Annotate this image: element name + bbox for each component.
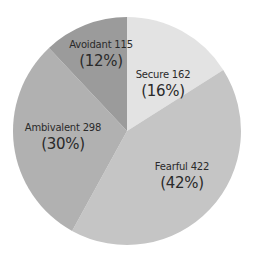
slice-label-secure-name: Secure 162 [136,70,191,80]
slice-label-ambivalent: Ambivalent 298 (30%) [25,123,101,152]
slice-label-fearful-name: Fearful 422 [155,162,209,172]
slice-label-secure: Secure 162 (16%) [136,70,191,99]
slice-label-ambivalent-percent: (30%) [25,137,101,152]
slice-label-secure-percent: (16%) [136,84,191,99]
slice-label-avoidant: Avoidant 115 (12%) [69,40,133,69]
slice-label-ambivalent-name: Ambivalent 298 [25,123,101,133]
slice-label-fearful-percent: (42%) [155,176,209,191]
slice-label-fearful: Fearful 422 (42%) [155,162,209,191]
slice-label-avoidant-name: Avoidant 115 [69,40,133,50]
slice-label-avoidant-percent: (12%) [69,54,133,69]
